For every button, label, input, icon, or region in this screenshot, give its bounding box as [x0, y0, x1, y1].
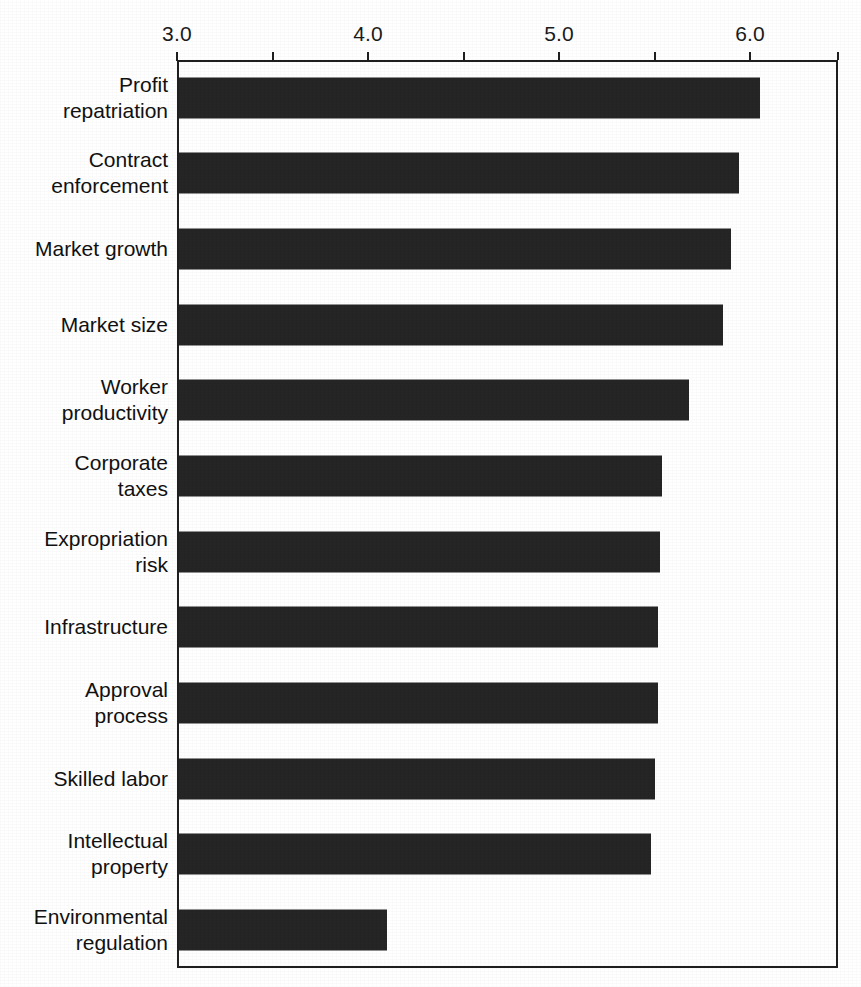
category-label: Contract enforcement [0, 147, 168, 199]
category-label: Skilled labor [0, 766, 168, 792]
bar-row[interactable]: Environmental regulation [0, 892, 861, 968]
category-label: Profit repatriation [0, 72, 168, 124]
category-label: Corporate taxes [0, 450, 168, 502]
x-axis-tick-labels: 3.04.05.06.0 [0, 22, 861, 50]
category-label: Worker productivity [0, 374, 168, 426]
bar[interactable] [179, 304, 723, 345]
bar[interactable] [179, 607, 658, 648]
bar-row[interactable]: Infrastructure [0, 590, 861, 666]
bar-row[interactable]: Profit repatriation [0, 60, 861, 136]
category-label: Infrastructure [0, 614, 168, 640]
bar-row[interactable]: Worker productivity [0, 363, 861, 439]
bar-row[interactable]: Approval process [0, 665, 861, 741]
x-axis-tick-label: 5.0 [544, 22, 574, 46]
bar[interactable] [179, 153, 739, 194]
bar-row[interactable]: Market size [0, 287, 861, 363]
x-axis-minor-tick [272, 52, 274, 60]
bar-row[interactable]: Expropriation risk [0, 514, 861, 590]
bar-row[interactable]: Contract enforcement [0, 136, 861, 212]
bar-row[interactable]: Intellectual property [0, 817, 861, 893]
x-axis-tick-label: 6.0 [735, 22, 765, 46]
bar[interactable] [179, 834, 651, 875]
x-axis-tick-label: 3.0 [162, 22, 192, 46]
bar[interactable] [179, 910, 387, 951]
bar[interactable] [179, 456, 662, 497]
category-label: Expropriation risk [0, 526, 168, 578]
bar[interactable] [179, 531, 660, 572]
x-axis-minor-tick [837, 52, 839, 60]
category-label: Market size [0, 312, 168, 338]
category-label: Approval process [0, 677, 168, 729]
bar[interactable] [179, 229, 731, 270]
chart-page: 3.04.05.06.0 Profit repatriationContract… [0, 0, 861, 987]
category-label: Market growth [0, 236, 168, 262]
bar[interactable] [179, 758, 655, 799]
bar[interactable] [179, 77, 760, 118]
bar[interactable] [179, 683, 658, 724]
x-axis-minor-tick [654, 52, 656, 60]
bar[interactable] [179, 380, 689, 421]
bar-row[interactable]: Market growth [0, 211, 861, 287]
bar-rows: Profit repatriationContract enforcementM… [0, 60, 861, 968]
x-axis-minor-tick [463, 52, 465, 60]
category-label: Environmental regulation [0, 904, 168, 956]
x-axis-tick-label: 4.0 [353, 22, 383, 46]
bar-row[interactable]: Skilled labor [0, 741, 861, 817]
category-label: Intellectual property [0, 828, 168, 880]
bar-row[interactable]: Corporate taxes [0, 438, 861, 514]
